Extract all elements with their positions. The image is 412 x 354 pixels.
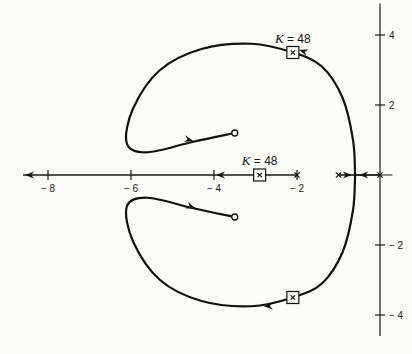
gain-label: K = 48 — [241, 153, 278, 168]
root-locus-plot: − 8− 6− 4− 242− 2− 4 K = 48K = 48 — [0, 0, 412, 354]
y-tick-label: − 2 — [389, 240, 404, 251]
y-tick-label: − 4 — [389, 310, 404, 321]
x-tick-label: − 6 — [124, 183, 139, 194]
locus-branches — [23, 44, 380, 307]
gain-label-value: = 48 — [284, 32, 311, 46]
gain-label-value: = 48 — [250, 154, 277, 168]
x-tick-label: − 8 — [41, 183, 56, 194]
x-tick-label: − 2 — [290, 183, 305, 194]
axes — [355, 4, 392, 337]
y-tick-label: 4 — [389, 30, 395, 41]
x-tick-label: − 4 — [207, 183, 222, 194]
zero-circle-marker — [232, 130, 238, 136]
zero-circle-marker — [232, 214, 238, 220]
direction-arrows — [25, 46, 368, 309]
locus-branch-lower-branch — [126, 175, 355, 306]
gain-label: K = 48 — [274, 31, 311, 46]
y-tick-label: 2 — [389, 100, 395, 111]
locus-branch-upper-branch — [126, 44, 355, 175]
gain-markers: K = 48K = 48 — [241, 31, 311, 304]
